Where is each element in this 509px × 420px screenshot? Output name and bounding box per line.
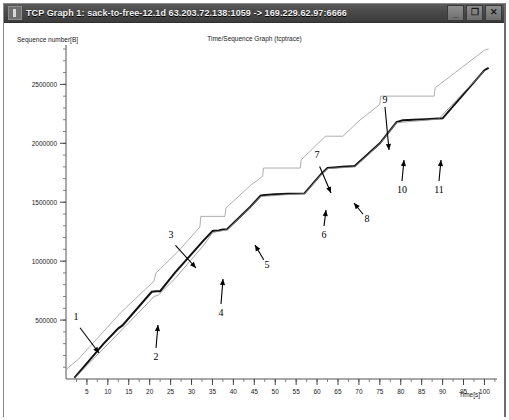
- x-tick-label: 15: [125, 388, 133, 395]
- x-tick-label: 100: [479, 388, 490, 395]
- maximize-button[interactable]: ❐: [466, 5, 483, 21]
- window-titlebar[interactable]: TCP Graph 1: sack-to-free-12.1d 63.203.7…: [4, 4, 504, 23]
- window-title: TCP Graph 1: sack-to-free-12.1d 63.203.7…: [26, 8, 445, 18]
- x-tick-label: 60: [313, 388, 321, 395]
- annotation-label-8: 8: [365, 213, 370, 224]
- annotation-label-2: 2: [154, 351, 159, 362]
- x-tick-label: 30: [188, 388, 196, 395]
- annotation-label-6: 6: [322, 229, 327, 240]
- y-tick-label: 1000000: [32, 258, 58, 265]
- maximize-icon: ❐: [467, 6, 482, 20]
- x-tick-label: 10: [104, 388, 112, 395]
- x-tick-label: 75: [376, 388, 384, 395]
- y-tick-label: 2000000: [32, 140, 58, 147]
- annotation-label-10: 10: [397, 184, 407, 195]
- series-group: [66, 49, 489, 378]
- x-tick-label: 5: [85, 388, 89, 395]
- minimize-icon: _: [448, 6, 463, 20]
- y-tick-label: 2500000: [32, 81, 58, 88]
- annotation-label-1: 1: [74, 311, 79, 322]
- x-tick-label: 20: [146, 388, 154, 395]
- y-tick-label: 500000: [35, 317, 57, 324]
- tcp-graph-window: TCP Graph 1: sack-to-free-12.1d 63.203.7…: [3, 3, 506, 417]
- x-tick-label: 25: [167, 388, 175, 395]
- annotation-label-3: 3: [169, 229, 174, 240]
- annotation-arrowhead-6: [323, 210, 328, 216]
- annotation-label-9: 9: [383, 94, 388, 105]
- series-data-sequence-line: [74, 68, 488, 378]
- series-ack-line: [74, 71, 484, 379]
- x-tick-label: 50: [272, 388, 280, 395]
- annotation-arrowhead-4: [220, 279, 225, 285]
- x-tick-label: 40: [230, 388, 238, 395]
- minimize-button[interactable]: _: [447, 5, 464, 21]
- x-tick-label: 65: [334, 388, 342, 395]
- x-tick-label: 70: [355, 388, 363, 395]
- annotation-label-11: 11: [434, 184, 444, 195]
- x-tick-label: 85: [418, 388, 426, 395]
- time-sequence-graph[interactable]: 5000001000000150000020000002500000 51015…: [4, 23, 504, 417]
- plot-area: Sequence number[B] Time/Sequence Graph (…: [4, 23, 504, 417]
- annotation-label-4: 4: [219, 307, 224, 318]
- annotation-label-5: 5: [265, 259, 270, 270]
- tcp-graph-icon: [8, 6, 22, 20]
- x-tick-label: 45: [251, 388, 259, 395]
- y-tick-labels: 5000001000000150000020000002500000: [32, 81, 58, 324]
- x-tick-label: 35: [209, 388, 217, 395]
- x-tick-label: 90: [439, 388, 447, 395]
- x-tick-label: 80: [397, 388, 405, 395]
- y-tick-label: 1500000: [32, 199, 58, 206]
- x-tick-label: 55: [293, 388, 301, 395]
- close-icon: ✕: [486, 6, 501, 20]
- annotation-label-7: 7: [315, 149, 320, 160]
- x-tick-label: 95: [460, 388, 468, 395]
- close-button[interactable]: ✕: [485, 5, 502, 21]
- annotation-arrow-shaft-9: [385, 107, 389, 150]
- x-tick-labels: 5101520253035404550556065707580859095100: [85, 388, 490, 395]
- graph-client-area: Sequence number[B] Time/Sequence Graph (…: [4, 23, 504, 417]
